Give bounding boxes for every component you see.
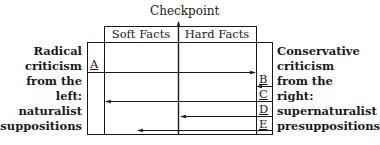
diagram-lines [0, 0, 360, 145]
